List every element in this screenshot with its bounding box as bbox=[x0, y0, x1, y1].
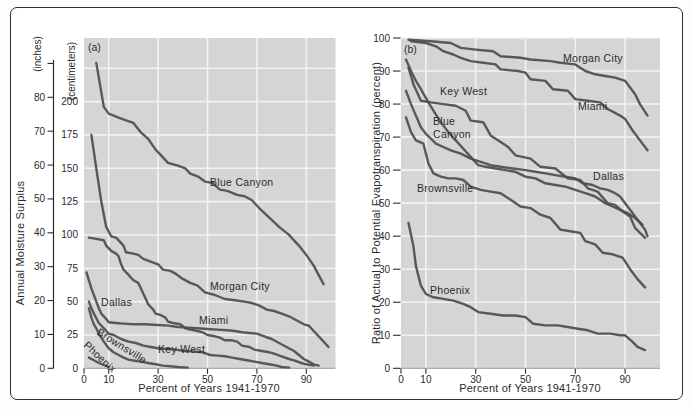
tick-label: 100 bbox=[373, 33, 390, 44]
tick-label: 175 bbox=[61, 129, 78, 140]
series-label-phoenix-b: Phoenix bbox=[430, 284, 470, 296]
tick-label: 10 bbox=[34, 329, 46, 340]
panel-a: 0103050709001020304050607080025507510012… bbox=[34, 38, 336, 385]
series-label-brownsville-b: Brownsville bbox=[417, 182, 473, 194]
tick-label: 80 bbox=[34, 92, 46, 103]
series-label-blue-canyon-line2-b: Canyon bbox=[433, 128, 471, 140]
series-label-blue-canyon-a: Blue Canyon bbox=[210, 176, 273, 188]
tick-label: 10 bbox=[420, 374, 432, 385]
series-label-morgan-city-a: Morgan City bbox=[210, 280, 270, 292]
tick-label: 0 bbox=[398, 374, 404, 385]
panel-a-tag: (a) bbox=[88, 41, 101, 53]
tick-label: 0 bbox=[39, 363, 45, 374]
dual-panel-line-chart: 0103050709001020304050607080025507510012… bbox=[0, 0, 691, 413]
panel-a-y-units-centimeters: (centimeters) bbox=[66, 42, 77, 100]
tick-label: 60 bbox=[34, 160, 46, 171]
series-label-miami-b: Miami bbox=[578, 100, 608, 112]
tick-label: 150 bbox=[61, 163, 78, 174]
tick-label: 100 bbox=[61, 229, 78, 240]
panel-a-y-units-inches: (inches) bbox=[32, 36, 43, 72]
tick-label: 0 bbox=[72, 363, 78, 374]
tick-label: 0 bbox=[81, 374, 87, 385]
panel-a-y-axis-title: Annual Moisture Surplus bbox=[14, 181, 26, 305]
tick-label: 50 bbox=[67, 296, 79, 307]
tick-label: 90 bbox=[301, 374, 313, 385]
tick-label: 10 bbox=[103, 374, 115, 385]
figure-page: 0103050709001020304050607080025507510012… bbox=[0, 0, 691, 413]
tick-label: 50 bbox=[34, 193, 46, 204]
panel-b: 010305070900102030405060708090100Morgan … bbox=[373, 33, 660, 385]
series-label-key-west-a: Key West bbox=[158, 343, 205, 355]
tick-label: 20 bbox=[34, 295, 46, 306]
series-label-key-west-b: Key West bbox=[440, 85, 487, 97]
tick-label: 40 bbox=[34, 227, 46, 238]
tick-label: 30 bbox=[34, 261, 46, 272]
series-label-dallas-a: Dallas bbox=[101, 296, 132, 308]
panel-a-x-axis-title: Percent of Years 1941-1970 bbox=[138, 382, 280, 394]
series-label-dallas-b: Dallas bbox=[593, 170, 624, 182]
panel-b-x-axis-title: Percent of Years 1941-1970 bbox=[459, 382, 601, 394]
series-label-morgan-city-b: Morgan City bbox=[563, 52, 623, 64]
tick-label: 125 bbox=[61, 196, 78, 207]
tick-label: 90 bbox=[620, 374, 632, 385]
panel-b-tag: (b) bbox=[404, 43, 417, 55]
series-label-blue-canyon-b: Blue bbox=[433, 115, 455, 127]
series-label-miami-a: Miami bbox=[199, 314, 229, 326]
tick-label: 70 bbox=[34, 126, 46, 137]
tick-label: 25 bbox=[67, 329, 79, 340]
tick-label: 0 bbox=[384, 363, 390, 374]
tick-label: 75 bbox=[67, 263, 79, 274]
panel-b-y-axis-title: Ratio of Actual to Potential Evapotransp… bbox=[370, 62, 382, 344]
